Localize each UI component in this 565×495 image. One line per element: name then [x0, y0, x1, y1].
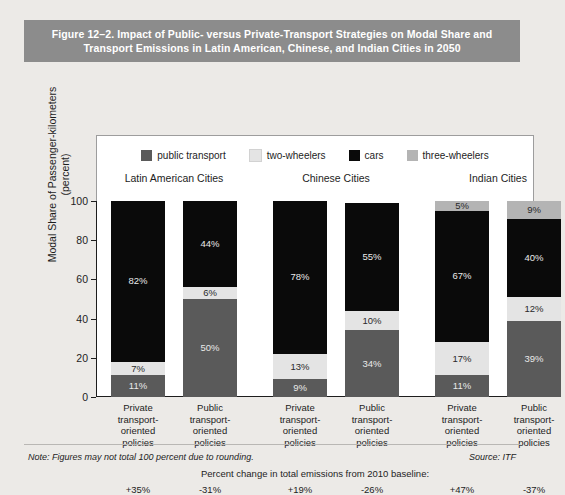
emissions-change-value: +35% [126, 484, 151, 495]
bar-segment-cars: 55% [345, 203, 399, 311]
legend-swatch-icon [249, 149, 262, 162]
legend-swatch-icon [349, 150, 360, 161]
bar-segment-two-wheelers: 12% [507, 297, 561, 321]
figure-footer: Note: Figures may not total 100 percent … [24, 447, 520, 467]
bar-segment-value: 50% [200, 343, 219, 353]
stacked-bar: 39%12%40%9% [507, 201, 561, 397]
bar-segment-value: 67% [452, 271, 471, 281]
bar-segment-value: 11% [453, 381, 471, 391]
legend-swatch-icon [407, 150, 418, 161]
bar-segment-public-transport: 11% [435, 375, 489, 397]
x-category-label: Publictransport-orientedpolicies [329, 402, 415, 448]
emissions-header: Percent change in total emissions from 2… [96, 468, 534, 479]
stacked-bar: 34%10%55% [345, 203, 399, 397]
x-category-label-line: transport- [329, 414, 415, 426]
x-category-label-line: oriented [167, 425, 253, 437]
y-axis-tick [91, 397, 96, 398]
x-category-label-line: oriented [491, 425, 565, 437]
bar-segment-value: 39% [524, 354, 543, 364]
bar-segment-value: 12% [524, 304, 543, 314]
legend-item-three-wheelers: three-wheelers [407, 150, 489, 161]
legend-label: three-wheelers [423, 150, 489, 161]
bar-segment-value: 11% [129, 381, 147, 391]
bar-segment-value: 9% [527, 205, 541, 215]
bar-segment-public-transport: 9% [273, 379, 327, 397]
bar-segment-cars: 78% [273, 201, 327, 354]
bar-segment-two-wheelers: 6% [183, 287, 237, 299]
y-axis-tick-label: 80 [76, 234, 88, 246]
x-category-label-line: oriented [329, 425, 415, 437]
legend-item-two-wheelers: two-wheelers [249, 149, 326, 162]
figure-title: Figure 12–2. Impact of Public- versus Pr… [52, 27, 493, 56]
emissions-change-value: -31% [199, 484, 221, 495]
group-title-chinese-cities: Chinese Cities [302, 172, 370, 184]
y-axis-tick-label: 100 [70, 195, 88, 207]
bar-segment-two-wheelers: 17% [435, 342, 489, 375]
x-category-label-line: transport- [167, 414, 253, 426]
bar-segment-cars: 40% [507, 219, 561, 297]
y-axis-tick-label: 20 [76, 352, 88, 364]
bar-segment-value: 10% [362, 316, 381, 326]
y-axis-tick-label: 40 [76, 313, 88, 325]
stacked-bar: 9%13%78% [273, 201, 327, 397]
emissions-change-value: -37% [523, 484, 545, 495]
x-category-label: Publictransport-orientedpolicies [167, 402, 253, 448]
axis-area: 020406080100 11%7%82%50%6%44%9%13%78%34%… [96, 201, 534, 397]
bar-segment-value: 6% [203, 288, 217, 298]
legend-label: two-wheelers [267, 150, 326, 161]
bars-plot-area: 11%7%82%50%6%44%9%13%78%34%10%55%11%17%6… [96, 201, 534, 397]
bar-segment-value: 34% [362, 359, 381, 369]
legend-label: public transport [157, 150, 225, 161]
x-category-label-line: transport- [491, 414, 565, 426]
legend-item-cars: cars [349, 150, 384, 161]
group-title-latin-american-cities: Latin American Cities [125, 172, 224, 184]
x-category-label-line: Public [167, 402, 253, 414]
bar-segment-public-transport: 50% [183, 299, 237, 397]
bar-segment-value: 44% [200, 239, 219, 249]
stacked-bar: 11%17%67%5% [435, 201, 489, 397]
bar-segment-value: 7% [131, 364, 145, 374]
stacked-bar: 11%7%82% [111, 201, 165, 397]
bar-segment-public-transport: 34% [345, 330, 399, 397]
y-axis-title-line-2: (percent) [58, 154, 70, 196]
y-axis-title-line-1: Modal Share of Passenger-kilometers [46, 87, 58, 263]
bar-segment-two-wheelers: 7% [111, 362, 165, 376]
bar-segment-two-wheelers: 10% [345, 311, 399, 331]
emissions-change-value: +19% [288, 484, 313, 495]
legend-swatch-icon [141, 150, 152, 161]
footer-divider [24, 444, 520, 445]
emissions-change-value: +47% [450, 484, 475, 495]
bar-segment-public-transport: 39% [507, 321, 561, 397]
x-category-label-line: Public [491, 402, 565, 414]
legend-item-public-transport: public transport [141, 150, 225, 161]
figure-title-line-1: Figure 12–2. Impact of Public- versus Pr… [52, 28, 493, 40]
y-axis-tick-label: 0 [82, 391, 88, 403]
bar-segment-cars: 82% [111, 201, 165, 362]
bar-segment-two-wheelers: 13% [273, 354, 327, 379]
group-title-indian-cities: Indian Cities [469, 172, 527, 184]
x-category-label-line: Public [329, 402, 415, 414]
bar-segment-value: 78% [290, 272, 309, 282]
bar-segment-value: 82% [128, 276, 147, 286]
chart-legend: public transporttwo-wheelerscarsthree-wh… [96, 144, 534, 166]
emissions-change-value: -26% [361, 484, 383, 495]
bar-segment-three-wheelers: 9% [507, 201, 561, 219]
bar-segment-three-wheelers: 5% [435, 201, 489, 211]
figure-title-band: Figure 12–2. Impact of Public- versus Pr… [24, 20, 520, 62]
bar-segment-value: 5% [455, 201, 469, 211]
bar-segment-public-transport: 11% [111, 375, 165, 397]
bar-segment-value: 55% [362, 252, 381, 262]
bar-segment-value: 17% [452, 354, 471, 364]
bar-segment-cars: 67% [435, 211, 489, 342]
figure-source: Source: ITF [469, 452, 516, 462]
figure-title-line-2: Transport Emissions in Latin American, C… [83, 42, 460, 54]
y-axis-title: Modal Share of Passenger-kilometers (per… [46, 75, 71, 275]
bar-segment-cars: 44% [183, 201, 237, 287]
x-category-label: Publictransport-orientedpolicies [491, 402, 565, 448]
bar-segment-value: 40% [524, 253, 543, 263]
bar-segment-value: 13% [290, 362, 309, 372]
legend-label: cars [365, 150, 384, 161]
figure-note: Note: Figures may not total 100 percent … [28, 452, 254, 462]
bar-segment-value: 9% [293, 383, 307, 393]
